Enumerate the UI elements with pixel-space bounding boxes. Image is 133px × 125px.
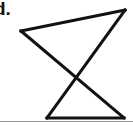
item-label: d. xyxy=(0,0,11,19)
segment-top-edge xyxy=(21,10,125,31)
geometry-figure-svg xyxy=(0,0,133,125)
figure-strokes xyxy=(21,10,125,118)
geometry-figure-panel: d. xyxy=(0,0,133,125)
bottom-divider xyxy=(0,121,133,122)
segment-left-diagonal xyxy=(21,31,124,118)
